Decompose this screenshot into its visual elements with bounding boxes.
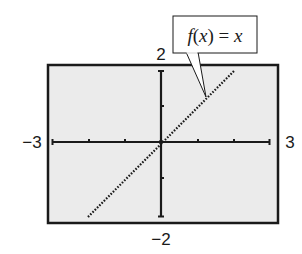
x-max-label: 3 (285, 133, 294, 152)
origin-point (159, 140, 163, 144)
function-label: f(x) = x (187, 25, 243, 47)
y-max-label: 2 (156, 45, 165, 64)
viewing-window-frame (48, 65, 278, 223)
x-min-label: −3 (22, 133, 41, 152)
graphing-calculator-window: f(x) = x −3 3 2 −2 (0, 0, 302, 254)
y-min-label: −2 (151, 230, 170, 249)
